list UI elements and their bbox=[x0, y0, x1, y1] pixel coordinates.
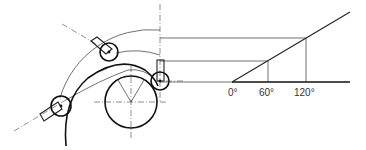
label-60deg: 60° bbox=[259, 87, 274, 98]
right-follower-pin bbox=[159, 80, 162, 83]
cam-v-mark-left bbox=[118, 80, 131, 102]
inner-arc bbox=[116, 51, 160, 55]
top-follower bbox=[91, 37, 118, 61]
right-follower-stem bbox=[157, 60, 164, 81]
cam-v-mark-right bbox=[131, 80, 144, 102]
left-follower-pin bbox=[60, 105, 63, 108]
top-follower-pin bbox=[108, 51, 111, 54]
displacement-line bbox=[232, 12, 350, 82]
label-0deg: 0° bbox=[228, 87, 238, 98]
label-120deg: 120° bbox=[294, 87, 315, 98]
cam-diagram: 0° 60° 120° bbox=[0, 0, 366, 150]
